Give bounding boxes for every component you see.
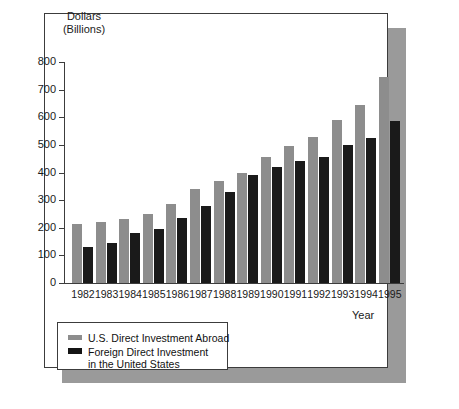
y-axis-tick-label: 0 [26,276,56,288]
bar-us-abroad [284,146,294,283]
x-axis-title: Year [352,309,374,321]
bar-us-abroad [332,120,342,283]
bar-group [143,62,164,283]
y-axis-tick-label: 200 [26,221,56,233]
x-axis-tick-label: 1995 [373,288,407,300]
legend-label-foreign-in-us: Foreign Direct Investment [88,346,208,359]
y-axis-tick [59,283,65,284]
y-axis-tick-label: 300 [26,193,56,205]
bar-foreign-in-us [319,157,329,283]
bar-group [308,62,329,283]
y-axis-tick [59,90,65,91]
bar-group [190,62,211,283]
bar-us-abroad [190,189,200,283]
y-axis-tick-label: 600 [26,110,56,122]
y-axis-tick-label: 100 [26,248,56,260]
legend-item-foreign-in-us: Foreign Direct Investment [68,345,208,359]
bar-group [332,62,353,283]
bar-group [379,62,400,283]
bar-us-abroad [214,181,224,283]
bar-foreign-in-us [201,206,211,283]
y-axis-tick [59,228,65,229]
bar-foreign-in-us [272,167,282,283]
bar-us-abroad [143,214,153,283]
y-axis-title-line1: Dollars [29,10,139,23]
legend-box: U.S. Direct Investment Abroad Foreign Di… [57,322,228,370]
y-axis-tick-label: 400 [26,166,56,178]
legend-label-us-abroad: U.S. Direct Investment Abroad [88,332,229,345]
black-bar-swatch-icon [68,348,82,354]
bar-us-abroad [166,204,176,283]
y-axis-tick [59,62,65,63]
gray-bar-swatch-icon [68,335,82,340]
bar-foreign-in-us [295,161,305,283]
bar-group [166,62,187,283]
plot-area: 0100200300400500600700800 19821983198419… [64,62,416,283]
bar-foreign-in-us [107,243,117,283]
legend-item-us-abroad: U.S. Direct Investment Abroad [68,331,229,345]
bar-group [261,62,282,283]
bar-group [214,62,235,283]
bar-us-abroad [96,222,106,283]
bar-foreign-in-us [225,192,235,283]
bar-us-abroad [261,157,271,283]
x-axis-line [64,283,404,284]
bar-us-abroad [355,105,365,283]
y-axis-title-line2: (Billions) [29,23,139,36]
bar-group [72,62,93,283]
bar-group [284,62,305,283]
bar-foreign-in-us [366,138,376,283]
y-axis-tick [59,255,65,256]
bar-us-abroad [119,219,129,283]
bar-group [96,62,117,283]
bar-us-abroad [308,137,318,283]
bar-foreign-in-us [177,218,187,283]
bar-us-abroad [72,224,82,283]
legend-label-foreign-in-us-line2: in the United States [88,358,180,370]
bar-us-abroad [379,77,389,283]
bar-foreign-in-us [390,121,400,283]
bar-foreign-in-us [343,145,353,283]
y-axis-tick [59,145,65,146]
y-axis-tick-label: 500 [26,138,56,150]
y-axis-tick [59,200,65,201]
bar-us-abroad [237,173,247,284]
y-axis-tick-label: 700 [26,83,56,95]
y-axis-tick [59,117,65,118]
y-axis-tick-label: 800 [26,55,56,67]
figure-root: Dollars (Billions) Year 0100200300400500… [0,0,459,409]
y-axis-title: Dollars (Billions) [29,10,139,36]
bar-foreign-in-us [83,247,93,283]
bar-group [237,62,258,283]
y-axis-tick [59,173,65,174]
bar-group [119,62,140,283]
bar-foreign-in-us [248,175,258,283]
bar-foreign-in-us [130,233,140,283]
bar-foreign-in-us [154,229,164,283]
bar-group [355,62,376,283]
